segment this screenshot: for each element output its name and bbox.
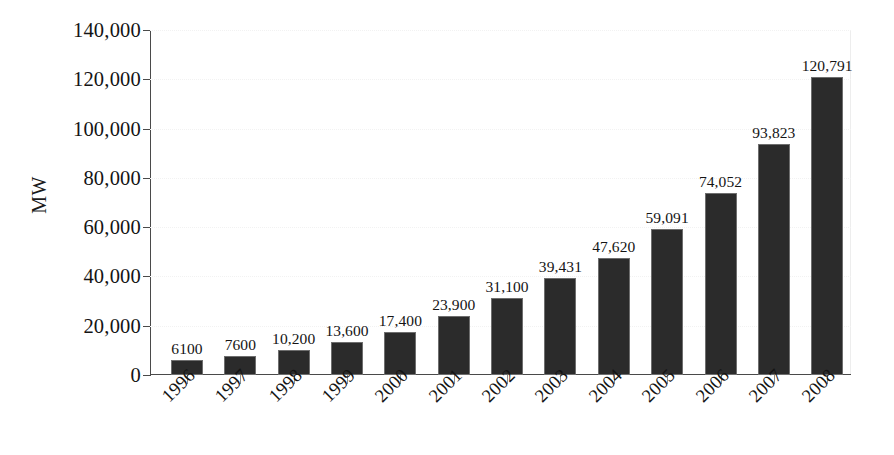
y-axis-tick <box>143 227 150 228</box>
y-axis-tick-label: 40,000 <box>83 265 141 288</box>
bar-value-label: 13,600 <box>325 322 368 340</box>
y-axis-tick-label: 140,000 <box>73 19 141 42</box>
bar-chart: MW 020,00040,00060,00080,000100,000120,0… <box>0 0 894 455</box>
bar: 31,100 <box>491 298 523 375</box>
y-gridline <box>150 129 851 130</box>
y-axis-tick-label: 0 <box>131 364 141 387</box>
y-axis-tick-label: 100,000 <box>73 117 141 140</box>
y-axis-tick <box>143 129 150 130</box>
y-axis-tick-label: 80,000 <box>83 166 141 189</box>
y-axis-tick <box>143 375 150 376</box>
bar: 39,431 <box>544 278 576 375</box>
bar-value-label: 47,620 <box>592 238 635 256</box>
bar-value-label: 7600 <box>225 336 256 354</box>
y-axis-tick-label: 60,000 <box>83 216 141 239</box>
bar: 47,620 <box>598 258 630 375</box>
bar-value-label: 59,091 <box>646 209 689 227</box>
y-axis-tick <box>143 79 150 80</box>
y-axis-tick-label: 20,000 <box>83 314 141 337</box>
bar-value-label: 74,052 <box>699 173 742 191</box>
bar-value-label: 23,900 <box>432 296 475 314</box>
bar-value-label: 120,791 <box>802 57 853 75</box>
bar-value-label: 93,823 <box>752 124 795 142</box>
y-axis-title: MW <box>28 140 51 250</box>
bar-value-label: 39,431 <box>539 258 582 276</box>
plot-area: 020,00040,00060,00080,000100,000120,0001… <box>150 30 851 375</box>
y-gridline <box>150 30 851 31</box>
y-gridline <box>150 227 851 228</box>
plot-frame-right <box>850 30 851 375</box>
y-axis-tick-label: 120,000 <box>73 68 141 91</box>
y-gridline <box>150 178 851 179</box>
bar: 120,791 <box>811 77 843 375</box>
bar: 74,052 <box>705 193 737 375</box>
bar: 59,091 <box>651 229 683 375</box>
y-gridline <box>150 276 851 277</box>
bar-value-label: 31,100 <box>485 278 528 296</box>
y-gridline <box>150 79 851 80</box>
y-axis-tick <box>143 276 150 277</box>
bar-value-label: 6100 <box>171 340 202 358</box>
y-axis-tick <box>143 30 150 31</box>
bar-value-label: 17,400 <box>379 312 422 330</box>
y-axis-tick <box>143 326 150 327</box>
y-axis-tick <box>143 178 150 179</box>
bar: 93,823 <box>758 144 790 375</box>
bar-value-label: 10,200 <box>272 330 315 348</box>
y-axis-line <box>150 30 151 376</box>
